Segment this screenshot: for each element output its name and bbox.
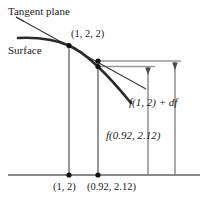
base-point-shifted-dot <box>95 172 100 177</box>
surface-label: Surface <box>8 45 42 56</box>
surface-value-label: f(0.92, 2.12) <box>106 130 160 141</box>
tangency-point <box>66 43 71 48</box>
surface-value-point <box>95 64 100 69</box>
tangent-value-label: f(1, 2) + df <box>129 97 177 108</box>
tangent-plane-diagram: Tangent plane Surface (1, 2, 2) f(1, 2) … <box>0 0 211 201</box>
base-point-shifted-label: (0.92, 2.12) <box>87 182 136 193</box>
measure-arrow-inner <box>145 67 151 175</box>
tangent-plane-value-point <box>95 58 100 63</box>
tangent-plane-leader <box>16 17 24 22</box>
base-point-dot <box>66 172 71 177</box>
tangent-plane-label: Tangent plane <box>8 6 70 17</box>
base-point-label: (1, 2) <box>53 182 76 193</box>
measure-arrow-outer <box>172 62 178 175</box>
diagram-canvas <box>0 0 211 201</box>
point-of-tangency-label: (1, 2, 2) <box>71 29 104 40</box>
